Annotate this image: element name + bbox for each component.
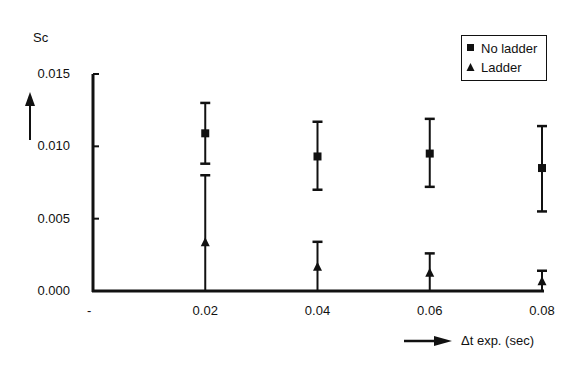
square-marker bbox=[201, 129, 209, 137]
x-tick-label: 0.06 bbox=[405, 303, 455, 318]
square-marker bbox=[314, 152, 322, 160]
triangle-marker bbox=[425, 268, 434, 277]
triangle-marker-icon bbox=[466, 60, 478, 75]
y-tick-label: 0.000 bbox=[0, 283, 70, 298]
arrow-right-icon bbox=[434, 336, 452, 346]
legend-item-no-ladder: No ladder bbox=[466, 39, 542, 58]
arrow-up-icon bbox=[25, 92, 35, 106]
legend-label: Ladder bbox=[481, 60, 521, 75]
triangle-marker bbox=[538, 276, 547, 285]
x-axis-title: Δt exp. (sec) bbox=[461, 333, 534, 348]
y-axis-title: Sc bbox=[33, 30, 48, 45]
square-marker bbox=[426, 150, 434, 158]
x-tick-label: 0.02 bbox=[180, 303, 230, 318]
legend-label: No ladder bbox=[481, 41, 537, 56]
triangle-marker bbox=[201, 237, 210, 246]
triangle-marker bbox=[313, 262, 322, 271]
square-marker bbox=[538, 164, 546, 172]
legend-item-ladder: Ladder bbox=[466, 58, 542, 77]
legend: No ladder Ladder bbox=[461, 35, 547, 81]
x-tick-label: 0.04 bbox=[293, 303, 343, 318]
y-tick-label: 0.010 bbox=[0, 138, 70, 153]
x-tick-label: 0.08 bbox=[517, 303, 567, 318]
y-tick-label: 0.015 bbox=[0, 66, 70, 81]
y-tick-label: 0.005 bbox=[0, 211, 70, 226]
square-marker-icon bbox=[466, 41, 478, 56]
x-origin-label: - bbox=[87, 303, 91, 318]
